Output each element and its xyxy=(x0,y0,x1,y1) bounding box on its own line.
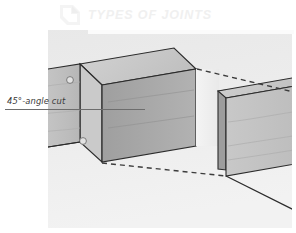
page-root: TYPES OF JOINTS 45°-angle cut xyxy=(0,0,296,233)
right-board-side-face xyxy=(226,84,292,176)
dowel-hole-upper xyxy=(67,77,74,84)
callout-label: 45°-angle cut xyxy=(7,96,65,106)
callout-45-degree-angle-cut: 45°-angle cut xyxy=(5,96,145,126)
callout-leader-line xyxy=(5,109,145,110)
dowel-hole-lower xyxy=(80,138,87,145)
joint-gap xyxy=(196,69,219,146)
illustration-panel xyxy=(48,24,292,228)
right-board-end-face xyxy=(218,90,226,170)
mitered-butt-joint-diagram xyxy=(48,24,292,228)
page-title: TYPES OF JOINTS xyxy=(88,6,212,24)
corner-bracket-icon xyxy=(58,3,82,27)
